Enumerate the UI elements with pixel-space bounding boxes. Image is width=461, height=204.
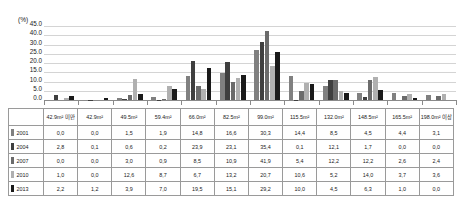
category-tick	[422, 100, 423, 105]
table-cell: 0,2	[146, 140, 180, 154]
bar	[191, 61, 196, 100]
table-column-header: 198.0m² 이상	[419, 109, 453, 126]
table-cell: 0,0	[78, 168, 112, 182]
bar	[357, 93, 362, 100]
bar	[167, 86, 172, 100]
table-cell: 20,7	[248, 168, 282, 182]
bar	[304, 83, 309, 100]
table-column-header: 82.5m²	[214, 109, 248, 126]
table-column-header: 165.5m²	[385, 109, 419, 126]
y-tick-label: 5.0	[33, 86, 42, 92]
y-tick-label: 15.0	[30, 67, 42, 73]
bar	[373, 77, 378, 100]
bar	[270, 66, 275, 100]
category-separators	[44, 100, 456, 105]
table-cell: 14,0	[351, 168, 385, 182]
table-cell: 13,2	[214, 168, 248, 182]
table-cell: 29,2	[248, 182, 282, 196]
plot-area	[44, 26, 456, 101]
bar	[254, 50, 259, 100]
table-cell: 3,7	[385, 168, 419, 182]
bar	[133, 79, 138, 100]
table-cell: 2,2	[44, 182, 78, 196]
table-column-header: 132.0m²	[317, 109, 351, 126]
table-cell: 6,3	[351, 182, 385, 196]
bar-group	[387, 26, 421, 100]
table-cell: 1,9	[146, 126, 180, 140]
table-cell: 23,1	[214, 140, 248, 154]
table-cell: 14,4	[283, 126, 317, 140]
table-row: 20070,00,03,00,98,510,941,95,412,212,22,…	[9, 154, 454, 168]
bar-group	[319, 26, 353, 100]
chart-figure: (%) 45.040.030.025.020.015.010.05.00.0 4…	[0, 0, 461, 204]
y-tick-label: 20.0	[30, 58, 42, 64]
table-row: 20010,00,01,51,914,816,630,314,48,54,54,…	[9, 126, 454, 140]
legend-year-label: 2001	[17, 130, 29, 136]
bar	[328, 80, 333, 100]
bar	[275, 52, 280, 100]
table-corner-header	[9, 109, 44, 126]
table-cell: 0,0	[78, 154, 112, 168]
bar-group	[353, 26, 387, 100]
table-cell: 0,1	[283, 140, 317, 154]
table-cell: 10,6	[283, 168, 317, 182]
table-cell: 2,4	[419, 154, 453, 168]
legend-year-label: 2010	[17, 172, 29, 178]
table-cell: 0,0	[78, 126, 112, 140]
table-cell: 12,1	[317, 140, 351, 154]
table-cell: 1,2	[78, 182, 112, 196]
bar	[201, 89, 206, 100]
y-tick-label: 10.0	[30, 77, 42, 83]
bar	[289, 76, 294, 100]
category-tick	[456, 100, 457, 105]
table-cell: 7,0	[146, 182, 180, 196]
table-row: 20132,21,23,97,019,515,129,210,04,56,31,…	[9, 182, 454, 196]
table-cell: 30,3	[248, 126, 282, 140]
table-cell: 3,6	[419, 168, 453, 182]
table-cell: 4,4	[385, 126, 419, 140]
table-cell: 3,9	[112, 182, 146, 196]
bar	[299, 91, 304, 100]
table-cell: 2,8	[44, 140, 78, 154]
table-cell: 3,1	[419, 126, 453, 140]
table-cell: 0,9	[146, 154, 180, 168]
table-column-header: 66.0m²	[180, 109, 214, 126]
table-row-year-header: 2004	[9, 140, 44, 154]
bar	[186, 76, 191, 100]
bar	[225, 62, 230, 100]
category-tick	[78, 100, 79, 105]
bar-group	[113, 26, 147, 100]
bar	[378, 90, 383, 100]
bar	[231, 82, 236, 100]
table-cell: 4,5	[351, 126, 385, 140]
y-tick-label: 30.0	[30, 40, 42, 46]
category-tick	[250, 100, 251, 105]
table-column-header: 42.9m² 미만	[44, 109, 78, 126]
legend-swatch	[11, 185, 14, 192]
bar	[333, 80, 338, 100]
table-row-year-header: 2001	[9, 126, 44, 140]
table-cell: 10,9	[214, 154, 248, 168]
bar-group	[78, 26, 112, 100]
bar-group	[216, 26, 250, 100]
bar	[236, 78, 241, 100]
table-cell: 14,8	[180, 126, 214, 140]
table-cell: 12,2	[351, 154, 385, 168]
table-header-row: 42.9m² 미만42.9m²49.5m²59.4m²66.0m²82.5m²9…	[9, 109, 454, 126]
table-cell: 0,0	[385, 140, 419, 154]
bar	[241, 75, 246, 100]
bar	[368, 80, 373, 100]
table-cell: 1,0	[44, 168, 78, 182]
y-tick-label: 0.0	[33, 95, 42, 101]
legend-year-label: 2007	[17, 158, 29, 164]
table-cell: 0,0	[419, 182, 453, 196]
legend-year-label: 2013	[17, 186, 29, 192]
bar	[339, 91, 344, 100]
table-column-header: 59.4m²	[146, 109, 180, 126]
category-tick	[44, 100, 45, 105]
bar-groups	[44, 26, 456, 100]
bar	[310, 84, 315, 100]
y-axis-unit-label: (%)	[18, 16, 28, 23]
category-tick	[147, 100, 148, 105]
table-cell: 0,0	[419, 140, 453, 154]
